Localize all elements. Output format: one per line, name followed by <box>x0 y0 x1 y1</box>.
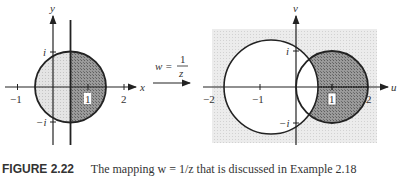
right-v-axis-label: v <box>293 2 298 14</box>
mapping-denominator: z <box>178 67 184 79</box>
right-plot: v u −2 −1 1 2 i −i <box>203 2 397 145</box>
figure-caption: FIGURE 2.22 The mapping w = 1/z that is … <box>2 162 357 177</box>
tick-label-2: 2 <box>121 93 127 105</box>
tick-label-neg-i: −i <box>36 116 46 128</box>
right-u-axis-label: u <box>391 81 397 93</box>
tick-label-neg-i: −i <box>279 117 289 129</box>
tick-label-neg1: −1 <box>252 93 264 105</box>
tick-label-1: 1 <box>85 93 91 105</box>
caption-text: The mapping w = 1/z that is discussed in… <box>91 162 357 176</box>
tick-label-neg2: −2 <box>203 93 215 105</box>
tick-label-i: i <box>286 45 289 57</box>
left-y-axis-label: y <box>49 2 55 14</box>
tick-label-1: 1 <box>329 93 335 105</box>
tick-label-neg1: −1 <box>10 93 22 105</box>
left-x-axis-label: x <box>139 81 145 93</box>
mapping-annotation: w = 1 z <box>153 53 190 83</box>
caption-label: FIGURE 2.22 <box>2 162 74 176</box>
tick-label-i: i <box>43 46 46 58</box>
figure-canvas: y x −1 1 2 i −i w = 1 z v u <box>0 0 403 179</box>
mapping-numerator: 1 <box>180 53 186 65</box>
tick-label-2: 2 <box>366 93 372 105</box>
mapping-lhs: w = <box>155 60 173 72</box>
left-plot: y x −1 1 2 i −i <box>5 2 145 145</box>
